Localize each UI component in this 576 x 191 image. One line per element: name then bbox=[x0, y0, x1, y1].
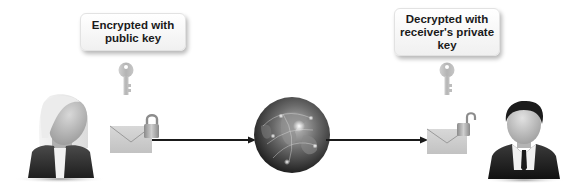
unlocked-padlock-icon bbox=[457, 113, 475, 136]
sender-callout-line-1: Encrypted with bbox=[92, 19, 174, 32]
public-key-icon bbox=[117, 62, 135, 98]
woman-avatar-icon bbox=[10, 90, 106, 184]
receiver-callout-line-2: receiver's private bbox=[400, 26, 494, 39]
globe-icon bbox=[253, 96, 331, 174]
encrypted-envelope bbox=[110, 112, 160, 154]
receiver-callout-line-3: key bbox=[400, 39, 494, 52]
man-avatar-icon bbox=[484, 98, 564, 184]
receiver-callout-line-1: Decrypted with bbox=[400, 13, 494, 26]
sender-callout-line-2: public key bbox=[92, 32, 174, 45]
decrypted-envelope bbox=[427, 111, 477, 155]
private-key-icon bbox=[438, 62, 456, 98]
arrow-sender-to-network bbox=[152, 135, 256, 145]
sender-callout: Encrypted with public key bbox=[80, 13, 186, 51]
receiver-callout: Decrypted with receiver's private key bbox=[394, 8, 500, 56]
arrow-network-to-receiver bbox=[326, 135, 428, 145]
